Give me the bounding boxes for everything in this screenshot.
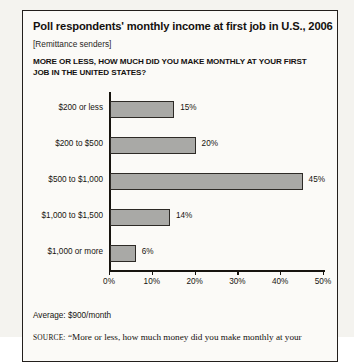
bar-category-label: $500 to $1,000: [48, 175, 103, 184]
bar: [110, 137, 196, 154]
bar-category-label: $200 or less: [58, 103, 103, 112]
bar-row: $1,000 to $1,50014%: [109, 200, 323, 236]
average-note: Average: $900/month: [33, 311, 111, 320]
bar-value-label: 45%: [309, 175, 325, 184]
source-label: SOURCE:: [33, 333, 66, 342]
source-text: “More or less, how much money did you ma…: [68, 332, 302, 342]
bar-value-label: 20%: [202, 139, 218, 148]
source-note: SOURCE: “More or less, how much money di…: [33, 332, 329, 344]
chart-frame: Poll respondents' monthly income at firs…: [22, 10, 338, 362]
page-title: Poll respondents' monthly income at firs…: [33, 20, 327, 33]
bar-value-label: 6%: [142, 247, 154, 256]
x-axis-tick-label: 20%: [186, 277, 202, 286]
x-axis-tick: [152, 270, 153, 275]
bar: [110, 245, 136, 262]
x-axis-tick-label: 30%: [229, 277, 245, 286]
plot-area: $200 or less15%$200 to $50020%$500 to $1…: [109, 92, 323, 270]
bar: [110, 209, 170, 226]
x-axis-tick: [237, 270, 238, 275]
bar-category-label: $200 to $500: [55, 139, 103, 148]
x-axis-tick-label: 50%: [315, 277, 331, 286]
bar-category-label: $1,000 or more: [47, 247, 103, 256]
chart-inner: Poll respondents' monthly income at firs…: [23, 11, 337, 361]
bar: [110, 173, 303, 190]
bar-value-label: 14%: [176, 211, 192, 220]
bar-value-label: 15%: [180, 103, 196, 112]
bar-row: $500 to $1,00045%: [109, 164, 323, 200]
bar: [110, 101, 174, 118]
x-axis-tick-label: 0%: [103, 277, 115, 286]
bar-row: $200 or less15%: [109, 92, 323, 128]
bar-category-label: $1,000 to $1,500: [42, 211, 103, 220]
chart-question: MORE OR LESS, HOW MUCH DID YOU MAKE MONT…: [33, 57, 325, 78]
bar-row: $200 to $50020%: [109, 128, 323, 164]
x-axis-tick: [280, 270, 281, 275]
x-axis-tick: [109, 270, 110, 275]
chart-subtitle: [Remittance senders]: [33, 40, 327, 49]
x-axis-line: [109, 270, 325, 272]
x-axis-tick: [195, 270, 196, 275]
x-axis-tick-label: 10%: [144, 277, 160, 286]
bar-row: $1,000 or more6%: [109, 236, 323, 272]
bar-chart: $200 or less15%$200 to $50020%$500 to $1…: [33, 88, 329, 278]
x-axis-tick-label: 40%: [272, 277, 288, 286]
x-axis-tick: [323, 270, 324, 275]
